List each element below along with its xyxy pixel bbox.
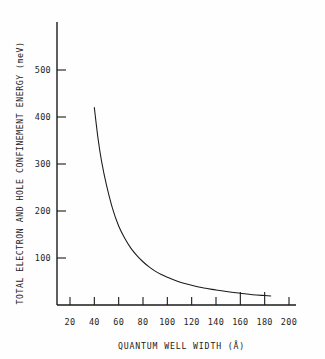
x-tick-label: 60	[106, 317, 132, 327]
x-tick-label: 120	[179, 317, 205, 327]
y-tick-label: 500	[25, 65, 51, 75]
y-tick-label: 300	[25, 159, 51, 169]
y-tick-label: 100	[25, 253, 51, 263]
x-tick-label: 160	[227, 317, 253, 327]
x-tick-label: 140	[203, 317, 229, 327]
tick-marks-group	[57, 70, 289, 305]
x-tick-label: 80	[130, 317, 156, 327]
y-tick-label: 400	[25, 112, 51, 122]
chart-svg	[0, 0, 325, 359]
axes-group	[57, 22, 296, 305]
x-tick-label: 100	[154, 317, 180, 327]
x-tick-label: 40	[81, 317, 107, 327]
data-series-curve	[94, 108, 270, 296]
x-tick-label: 180	[252, 317, 278, 327]
plot-area	[0, 0, 325, 359]
x-tick-label: 20	[57, 317, 83, 327]
y-tick-label: 200	[25, 206, 51, 216]
x-tick-label: 200	[276, 317, 302, 327]
figure-panel: TOTAL ELECTRON AND HOLE CONFINEMENT ENER…	[0, 0, 325, 359]
